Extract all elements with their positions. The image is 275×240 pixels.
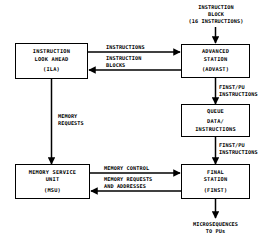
finst-abbrev: (FINST)	[204, 187, 228, 194]
block-final-station[interactable]: FINAL STATION (FINST)	[181, 164, 250, 199]
queue-line-2: DATA/	[207, 118, 224, 125]
finst-line-1: FINAL	[207, 169, 224, 176]
ila-line-1: INSTRUCTION	[33, 48, 70, 55]
advast-abbrev: (ADVAST)	[202, 66, 229, 73]
block-queue[interactable]: QUEUE DATA/ INSTRUCTIONS	[181, 104, 250, 137]
queue-line-3: INSTRUCTIONS	[195, 126, 236, 133]
ila-abbrev: (ILA)	[43, 66, 60, 73]
queue-line-1: QUEUE	[207, 108, 224, 115]
block-instruction-look-ahead[interactable]: INSTRUCTION LOOK AHEAD (ILA)	[15, 43, 88, 79]
label-memory-requests-and-addresses: MEMORY REQUESTS AND ADDRESSES	[104, 176, 152, 190]
label-input-instruction-block: INSTRUCTION BLOCK (16 INSTRUCTIONS)	[160, 4, 272, 25]
msu-abbrev: (MSU)	[44, 187, 61, 194]
label-instructions: INSTRUCTIONS	[106, 44, 145, 51]
advast-line-1: ADVANCED	[202, 48, 229, 55]
block-advanced-station[interactable]: ADVANCED STATION (ADVAST)	[181, 44, 250, 78]
block-diagram: INSTRUCTION LOOK AHEAD (ILA) ADVANCED ST…	[0, 0, 275, 240]
label-queue-to-finst-finst-pu-instructions: FINST/PU INSTRUCTIONS	[219, 142, 258, 156]
ila-line-2: LOOK AHEAD	[35, 56, 69, 63]
msu-line-2: UNIT	[46, 176, 60, 183]
advast-line-2: STATION	[204, 56, 228, 63]
label-memory-control: MEMORY CONTROL	[104, 165, 149, 172]
block-memory-service-unit[interactable]: MEMORY SERVICE UNIT (MSU)	[15, 164, 90, 199]
finst-line-2: STATION	[204, 176, 228, 183]
label-memory-requests: MEMORY REQUESTS	[58, 113, 84, 127]
label-advast-to-queue-finst-pu-instructions: FINST/PU INSTRUCTIONS	[219, 84, 258, 98]
msu-line-1: MEMORY SERVICE	[29, 169, 76, 176]
label-instruction-blocks: INSTRUCTION BLOCKS	[106, 55, 141, 69]
label-microsequences-to-pus: MICROSEQUENCES TO PUs	[163, 221, 268, 235]
